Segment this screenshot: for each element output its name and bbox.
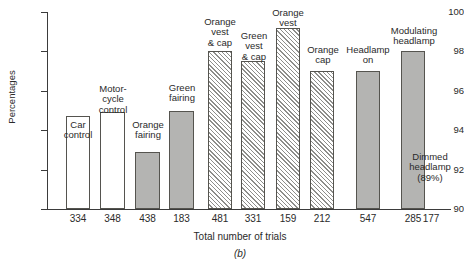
- trial-count-orange-vest: 159: [271, 213, 305, 225]
- trial-count-orange-vest-cap: 481: [203, 213, 237, 225]
- bar-modulating-headlamp[interactable]: [401, 51, 425, 209]
- bar-label-car-control: Car control: [56, 120, 100, 141]
- bar-orange-vest-cap[interactable]: [208, 51, 232, 209]
- trial-count-dimmed-headlamp: 177: [414, 213, 448, 225]
- trial-count-green-vest-cap: 331: [236, 213, 270, 225]
- bar-label-green-vest-cap: Green vest & cap: [229, 31, 279, 62]
- bar-label-orange-fairing: Orange fairing: [123, 120, 173, 141]
- figure-caption: (b): [150, 248, 330, 259]
- bar-label-modulating-headlamp: Modulating headlamp: [383, 26, 445, 47]
- bar-label-orange-vest: Orange vest: [263, 8, 313, 29]
- y-tick-label-98: 98: [428, 46, 464, 56]
- y-tick-92: [41, 170, 47, 171]
- y-axis-line: [47, 12, 48, 210]
- y-tick-100: [41, 12, 47, 13]
- trial-count-orange-fairing: 438: [131, 213, 165, 225]
- bar-motor-cycle-control[interactable]: [100, 112, 125, 209]
- bar-label-headlamp-on: Headlamp on: [340, 45, 396, 66]
- bar-chart: Percentages 9092949698100 Car control334…: [0, 0, 464, 267]
- y-tick-label-100: 100: [428, 7, 464, 17]
- bar-green-fairing[interactable]: [169, 111, 194, 210]
- y-tick-96: [41, 91, 47, 92]
- dimmed-headlamp-annotation: Dimmed headlamp (89%): [399, 152, 461, 183]
- trial-count-car-control: 334: [61, 213, 95, 225]
- trial-count-orange-cap: 212: [305, 213, 339, 225]
- bar-orange-cap[interactable]: [310, 71, 334, 209]
- trial-count-green-fairing: 183: [165, 213, 199, 225]
- trial-count-motor-cycle-control: 348: [96, 213, 130, 225]
- bar-green-vest-cap[interactable]: [241, 61, 265, 209]
- y-tick-label-94: 94: [428, 125, 464, 135]
- bar-headlamp-on[interactable]: [356, 71, 380, 209]
- y-axis-title: Percentages: [7, 66, 17, 128]
- bar-orange-vest[interactable]: [276, 28, 300, 209]
- x-axis-title: Total number of trials: [150, 231, 330, 242]
- y-tick-94: [41, 130, 47, 131]
- bar-label-green-fairing: Green fairing: [157, 83, 207, 104]
- trial-count-headlamp-on: 547: [351, 213, 385, 225]
- x-axis-line: [47, 209, 451, 210]
- y-tick-label-96: 96: [428, 86, 464, 96]
- bar-label-motor-cycle-control: Motor- cycle control: [88, 84, 138, 115]
- y-tick-98: [41, 51, 47, 52]
- bar-orange-fairing[interactable]: [135, 152, 160, 209]
